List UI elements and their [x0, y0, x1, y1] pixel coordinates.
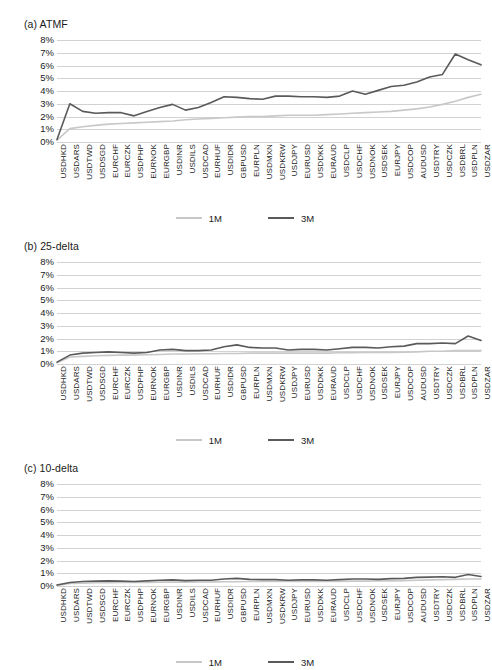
x-tick-label: USDCHF: [356, 366, 364, 400]
x-tick-label: USDMXN: [266, 588, 274, 623]
x-tick-label: USDCLP: [343, 588, 351, 621]
legend-swatch-icon: [268, 661, 294, 664]
y-tick-label: 0%: [40, 359, 54, 369]
x-tick-label: EURCHF: [112, 588, 120, 622]
x-tick-label: USDNOK: [369, 588, 377, 623]
y-tick-label: 2%: [40, 112, 54, 122]
x-tick-label: USDZAR: [484, 588, 492, 622]
y-axis-labels-c: 0%1%2%3%4%5%6%7%8%: [20, 484, 54, 586]
y-tick-label: 0%: [40, 581, 54, 591]
x-tick-label: USDSEK: [381, 366, 389, 400]
x-tick-label: AUDUSD: [420, 144, 428, 178]
legend-a: 1M3M: [0, 210, 490, 226]
x-tick-label: USDBRL: [459, 588, 467, 621]
x-tick-label: USDTWD: [86, 366, 94, 402]
chart-panel-atmf: (a) ATMF 0%1%2%3%4%5%6%7%8% USDHKDUSDARS…: [0, 14, 490, 236]
legend-item-1m: 1M: [176, 657, 222, 668]
series-line-1m: [57, 94, 481, 140]
legend-label: 3M: [301, 657, 314, 668]
x-tick-label: USDINR: [176, 588, 184, 619]
x-tick-label: USDPHP: [137, 144, 145, 178]
y-tick-label: 6%: [40, 505, 54, 515]
x-tick-label: USDTWD: [86, 588, 94, 624]
legend-swatch-icon: [176, 439, 202, 442]
x-tick-label: EURNOK: [150, 588, 158, 623]
x-tick-label: USDCOP: [407, 366, 415, 401]
x-tick-label: USDSGD: [99, 144, 107, 179]
x-tick-label: EURGBP: [163, 366, 171, 400]
x-tick-label: USDINR: [176, 144, 184, 175]
x-tick-label: USDILS: [189, 144, 197, 174]
x-tick-label: USDNOK: [369, 366, 377, 401]
x-tick-label: USDDKK: [317, 588, 325, 622]
x-tick-label: USDBRL: [459, 366, 467, 399]
series-line-3m: [57, 54, 481, 139]
x-tick-label: EURCZK: [124, 144, 132, 178]
x-axis-labels-b: USDHKDUSDARSUSDTWDUSDSGDEURCHFEURCZKUSDP…: [57, 366, 481, 428]
plot-area-b: [57, 262, 481, 364]
legend-swatch-icon: [176, 661, 202, 664]
y-tick-label: 8%: [40, 35, 54, 45]
y-tick-label: 5%: [40, 296, 54, 306]
x-tick-label: EURNOK: [150, 366, 158, 401]
x-tick-label: USDCZK: [446, 144, 454, 178]
x-tick-label: USDCAD: [202, 144, 210, 178]
x-tick-label: EURUSD: [304, 366, 312, 400]
legend-label: 1M: [209, 213, 222, 224]
x-tick-label: EURUSD: [304, 144, 312, 178]
x-tick-label: USDPHP: [137, 588, 145, 622]
x-tick-label: EURCZK: [124, 366, 132, 400]
gridline-0%: [57, 586, 481, 587]
x-tick-label: USDZAR: [484, 366, 492, 400]
y-tick-label: 6%: [40, 283, 54, 293]
x-tick-label: AUDUSD: [420, 588, 428, 622]
y-tick-label: 1%: [40, 347, 54, 357]
y-tick-label: 7%: [40, 492, 54, 502]
legend-item-3m: 3M: [268, 213, 314, 224]
legend-swatch-icon: [268, 439, 294, 442]
series-line-3m: [57, 336, 481, 362]
x-tick-label: USDDKK: [317, 366, 325, 400]
y-tick-label: 3%: [40, 321, 54, 331]
x-tick-label: USDPLN: [471, 588, 479, 621]
x-tick-label: USDIDR: [227, 366, 235, 397]
x-tick-label: EURPLN: [253, 144, 261, 177]
x-tick-label: EURPLN: [253, 366, 261, 399]
x-tick-label: USDHKD: [60, 588, 68, 622]
x-tick-label: USDHKD: [60, 366, 68, 400]
legend-label: 3M: [301, 213, 314, 224]
panel-title-b: (b) 25-delta: [24, 240, 79, 252]
x-tick-label: USDINR: [176, 366, 184, 397]
x-tick-label: GBPUSD: [240, 588, 248, 622]
y-tick-label: 3%: [40, 99, 54, 109]
x-tick-label: EURNOK: [150, 144, 158, 179]
y-tick-label: 2%: [40, 334, 54, 344]
x-tick-label: USDARS: [73, 144, 81, 178]
x-tick-label: USDIDR: [227, 144, 235, 175]
y-tick-label: 8%: [40, 479, 54, 489]
x-tick-label: EURHUF: [214, 588, 222, 622]
y-tick-label: 7%: [40, 48, 54, 58]
y-axis-labels-a: 0%1%2%3%4%5%6%7%8%: [20, 40, 54, 142]
x-tick-label: USDSGD: [99, 366, 107, 401]
x-tick-label: USDCLP: [343, 144, 351, 177]
x-tick-label: USDCZK: [446, 588, 454, 622]
legend-item-1m: 1M: [176, 213, 222, 224]
x-tick-label: USDKRW: [279, 144, 287, 180]
x-tick-label: USDCHF: [356, 144, 364, 178]
panel-title-a: (a) ATMF: [24, 18, 68, 30]
y-tick-label: 4%: [40, 308, 54, 318]
x-tick-label: USDJPY: [291, 144, 299, 176]
y-axis-labels-b: 0%1%2%3%4%5%6%7%8%: [20, 262, 54, 364]
legend-label: 3M: [301, 435, 314, 446]
y-tick-label: 1%: [40, 569, 54, 579]
x-tick-label: USDKRW: [279, 366, 287, 402]
legend-swatch-icon: [268, 217, 294, 220]
x-tick-label: EURAUD: [330, 588, 338, 622]
x-tick-label: USDIDR: [227, 588, 235, 619]
x-tick-label: USDCOP: [407, 144, 415, 179]
plot-area-c: [57, 484, 481, 586]
legend-c: 1M3M: [0, 654, 490, 670]
x-tick-label: GBPUSD: [240, 144, 248, 178]
